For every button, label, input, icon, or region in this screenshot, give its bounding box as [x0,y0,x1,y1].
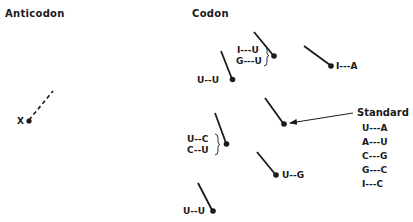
label-ia: I---A [336,61,358,71]
label-uu-top: U--U [197,75,219,85]
standard-pairs-list: U---A A---U C---G G---C I---C [362,121,387,191]
standard-pair: I---C [362,177,387,191]
label-iu: I---U [237,45,259,55]
codon-line-uu-top [221,51,235,82]
label-ug: U--G [282,170,304,180]
standard-arrow [290,113,353,123]
standard-pair: U---A [362,121,387,135]
label-cu: C--U [187,145,209,155]
standard-title: Standard [357,108,409,118]
brace-uc-cu [215,134,220,155]
standard-pair: C---G [362,149,387,163]
standard-pair: G---C [362,163,387,177]
anticodon-line [26,91,53,124]
codon-line-uc-cu [215,113,229,147]
diagram-lines [0,0,413,222]
codon-line-ia [304,46,334,69]
codon-line-ug [257,152,279,178]
standard-pair: A---U [362,135,387,149]
label-uu-bottom: U--U [183,206,205,216]
anticodon-x-label: X [17,116,24,126]
label-gu: G---U [236,56,262,66]
codon-line-standard [265,98,287,127]
label-uc: U--C [187,134,208,144]
